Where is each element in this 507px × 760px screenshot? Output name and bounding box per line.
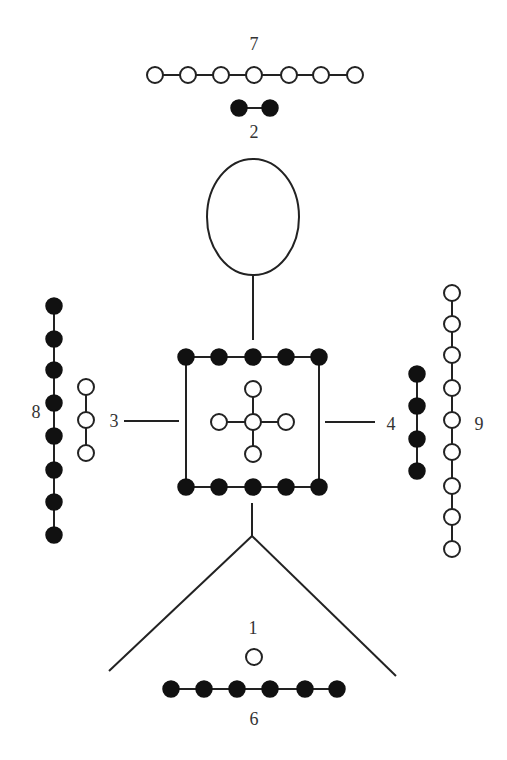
head-ellipse bbox=[207, 159, 299, 275]
label-3: 3 bbox=[110, 411, 119, 431]
group-3-white-dots: 3 bbox=[78, 379, 179, 461]
lo-shu-figure-diagram: 7 2 8 3 bbox=[0, 0, 507, 760]
label-7: 7 bbox=[250, 34, 259, 54]
group-7-white-dots: 7 bbox=[147, 34, 363, 83]
group-6-black-dots: 6 bbox=[163, 681, 345, 729]
group-2-black-dots: 2 bbox=[231, 100, 278, 142]
label-4: 4 bbox=[387, 414, 396, 434]
right-leg-line bbox=[252, 536, 396, 676]
group-1-white-dot: 1 bbox=[246, 618, 262, 665]
left-leg-line bbox=[109, 536, 252, 671]
label-8: 8 bbox=[32, 402, 41, 422]
group-9-white-dots: 9 bbox=[444, 285, 484, 557]
group-5-white-cross bbox=[211, 381, 294, 462]
label-2: 2 bbox=[250, 122, 259, 142]
group-8-black-dots: 8 bbox=[32, 298, 63, 543]
label-1: 1 bbox=[249, 618, 258, 638]
label-6: 6 bbox=[250, 709, 259, 729]
label-9: 9 bbox=[475, 414, 484, 434]
group-4-black-dots: 4 bbox=[325, 366, 425, 479]
